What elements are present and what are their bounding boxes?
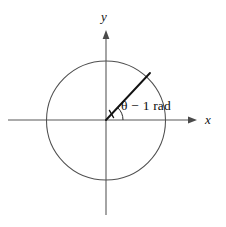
y-axis-arrowhead [103,30,110,39]
unit-circle-diagram [0,0,226,227]
x-axis-label: x [205,113,211,126]
y-axis-label: y [101,10,107,23]
angle-measure-label: θ − 1 rad [121,99,171,113]
figure-canvas: y x θ − 1 rad [0,0,226,227]
x-axis-arrowhead [188,117,197,124]
